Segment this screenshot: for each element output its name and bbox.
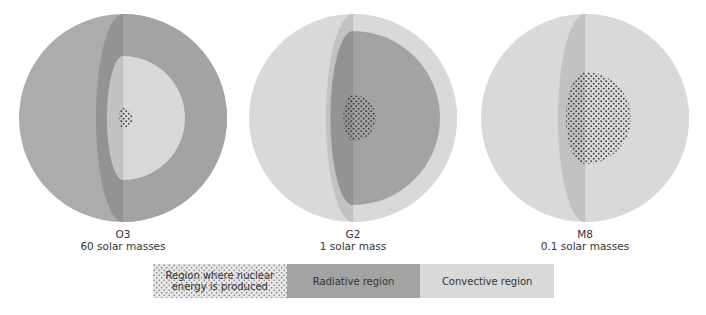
spectral-class-o3: O3 (43, 228, 203, 240)
legend-core-line1: Region where nuclear (166, 270, 275, 281)
legend-convective-label: Convective region (442, 276, 533, 287)
star-m8 (481, 14, 689, 222)
legend-radiative-label: Radiative region (313, 276, 395, 287)
star-o3 (19, 14, 227, 222)
spectral-class-g2: G2 (273, 228, 433, 240)
legend: Region where nuclear energy is produced … (153, 264, 554, 298)
legend-radiative: Radiative region (287, 264, 421, 298)
mass-g2: 1 solar mass (273, 240, 433, 252)
star-label-g2: G2 1 solar mass (273, 228, 433, 252)
star-label-o3: O3 60 solar masses (43, 228, 203, 252)
mass-o3: 60 solar masses (43, 240, 203, 252)
spectral-class-m8: M8 (505, 228, 665, 240)
star-label-m8: M8 0.1 solar masses (505, 228, 665, 252)
legend-core-line2: energy is produced (166, 281, 275, 292)
legend-convective: Convective region (420, 264, 554, 298)
legend-core: Region where nuclear energy is produced (153, 264, 287, 298)
mass-m8: 0.1 solar masses (505, 240, 665, 252)
star-g2 (249, 14, 457, 222)
